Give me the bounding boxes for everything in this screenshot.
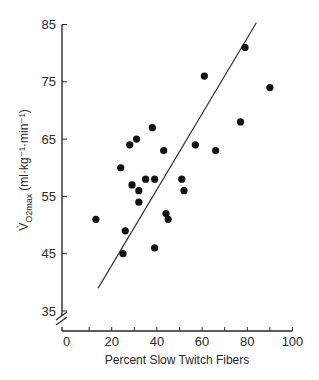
data-point — [160, 147, 167, 154]
data-point — [92, 216, 99, 223]
data-point — [142, 176, 149, 183]
data-points — [92, 44, 273, 257]
regression-line-segment — [98, 23, 256, 288]
y-axis-title: V̇O2max(ml·kg⁻¹·min⁻¹) — [17, 109, 34, 230]
x-tick-label: 20 — [104, 334, 118, 349]
regression-line — [98, 23, 256, 288]
y-tick-label: 65 — [42, 132, 56, 147]
y-tick-label: 85 — [42, 17, 56, 32]
x-tick-label: 60 — [195, 334, 209, 349]
data-point — [178, 176, 185, 183]
data-point — [135, 187, 142, 194]
scatter-chart: 020406080100 354555657585 Percent Slow T… — [0, 0, 319, 380]
y-axis-ticks: 354555657585 — [42, 17, 67, 319]
data-point — [180, 187, 187, 194]
y-axis-title-sub: O2max — [24, 193, 34, 223]
data-point — [126, 141, 133, 148]
data-point — [149, 124, 156, 131]
x-tick-label: 80 — [240, 334, 254, 349]
data-point — [237, 118, 244, 125]
y-axis-title-units: (ml·kg⁻¹·min⁻¹) — [17, 109, 31, 190]
data-point — [122, 227, 129, 234]
data-point — [192, 141, 199, 148]
y-tick-label: 75 — [42, 74, 56, 89]
data-point — [151, 244, 158, 251]
data-point — [266, 84, 273, 91]
data-point — [151, 176, 158, 183]
axes — [56, 25, 293, 332]
x-tick-label: 100 — [282, 334, 304, 349]
y-tick-label: 35 — [42, 304, 56, 319]
data-point — [119, 250, 126, 257]
data-point — [165, 216, 172, 223]
data-point — [117, 164, 124, 171]
data-point — [133, 136, 140, 143]
y-tick-label: 55 — [42, 189, 56, 204]
x-tick-label: 0 — [63, 334, 70, 349]
y-tick-label: 45 — [42, 246, 56, 261]
x-tick-label: 40 — [150, 334, 164, 349]
x-axis-title: Percent Slow Twitch Fibers — [105, 353, 250, 367]
data-point — [135, 199, 142, 206]
y-axis-title-main: V̇ — [17, 223, 31, 231]
data-point — [241, 44, 248, 51]
data-point — [201, 72, 208, 79]
data-point — [128, 181, 135, 188]
data-point — [212, 147, 219, 154]
